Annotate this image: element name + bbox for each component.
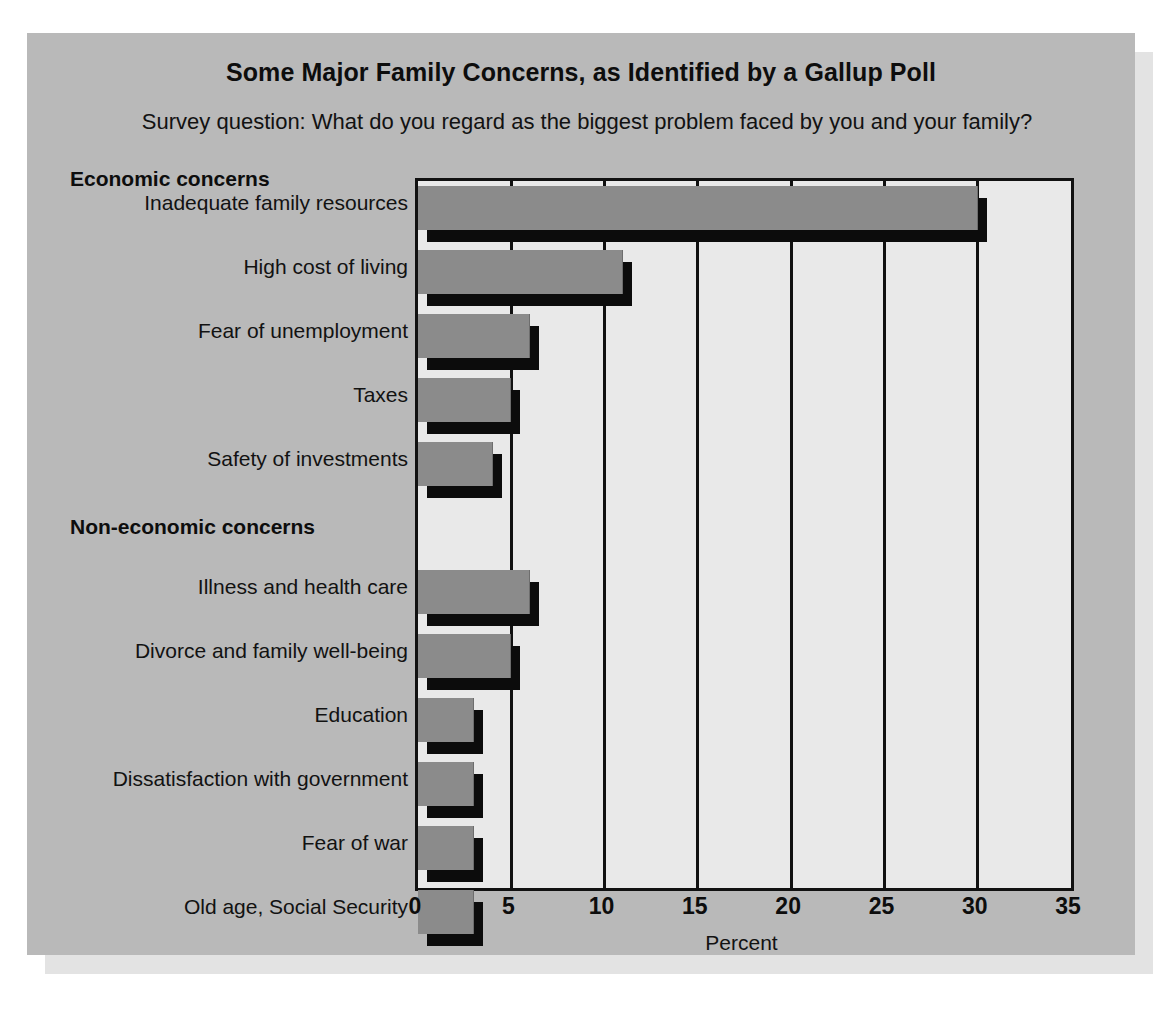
x-tick-30: 30 bbox=[945, 893, 1005, 920]
x-axis-title: Percent bbox=[415, 931, 1068, 955]
plot-area bbox=[415, 178, 1074, 891]
bar-row bbox=[418, 378, 1071, 442]
category-label: Illness and health care bbox=[0, 575, 408, 599]
bar bbox=[418, 634, 511, 678]
chart-title: Some Major Family Concerns, as Identifie… bbox=[27, 58, 1135, 87]
chart-subtitle: Survey question: What do you regard as t… bbox=[67, 109, 1107, 135]
x-tick-35: 35 bbox=[1038, 893, 1098, 920]
bar-series bbox=[418, 181, 1071, 888]
bar bbox=[418, 826, 474, 870]
category-label: Education bbox=[0, 703, 408, 727]
bar bbox=[418, 250, 623, 294]
bar bbox=[418, 442, 493, 486]
category-label: Safety of investments bbox=[0, 447, 408, 471]
bar-row bbox=[418, 442, 1071, 506]
x-tick-0: 0 bbox=[385, 893, 445, 920]
category-label: Dissatisfaction with government bbox=[0, 767, 408, 791]
category-label: Fear of unemployment bbox=[0, 319, 408, 343]
x-tick-20: 20 bbox=[758, 893, 818, 920]
category-label: Inadequate family resources bbox=[0, 191, 408, 215]
bar-row bbox=[418, 250, 1071, 314]
bar bbox=[418, 698, 474, 742]
bar-row bbox=[418, 826, 1071, 890]
bar bbox=[418, 378, 511, 422]
x-tick-10: 10 bbox=[572, 893, 632, 920]
bar bbox=[418, 570, 530, 614]
chart-figure-panel: Some Major Family Concerns, as Identifie… bbox=[27, 33, 1135, 955]
category-label: Taxes bbox=[0, 383, 408, 407]
category-label: Old age, Social Security bbox=[0, 895, 408, 919]
bar-row bbox=[418, 570, 1071, 634]
bar bbox=[418, 762, 474, 806]
bar-row bbox=[418, 762, 1071, 826]
group-heading-economic: Economic concerns bbox=[70, 167, 270, 191]
bar-row bbox=[418, 186, 1071, 250]
category-label: Fear of war bbox=[0, 831, 408, 855]
bar-row bbox=[418, 634, 1071, 698]
bar-row bbox=[418, 314, 1071, 378]
x-tick-25: 25 bbox=[851, 893, 911, 920]
category-label: High cost of living bbox=[0, 255, 408, 279]
x-tick-15: 15 bbox=[665, 893, 725, 920]
bar bbox=[418, 314, 530, 358]
group-heading-non-economic: Non-economic concerns bbox=[70, 515, 315, 539]
category-label: Divorce and family well-being bbox=[0, 639, 408, 663]
x-tick-5: 5 bbox=[478, 893, 538, 920]
bar bbox=[418, 186, 978, 230]
bar-row bbox=[418, 698, 1071, 762]
